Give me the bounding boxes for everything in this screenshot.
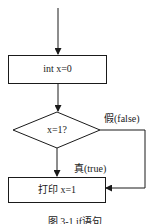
figure-caption: 图 3-1 if语句 bbox=[0, 216, 150, 224]
decision-label: x=1? bbox=[13, 124, 101, 136]
true-branch-label: 真(true) bbox=[74, 163, 106, 175]
print-label: 打印 x=1 bbox=[8, 184, 106, 196]
assign-label: int x=0 bbox=[8, 63, 107, 75]
arrow-false-branch bbox=[100, 130, 145, 188]
false-branch-label: 假(false) bbox=[104, 113, 140, 125]
